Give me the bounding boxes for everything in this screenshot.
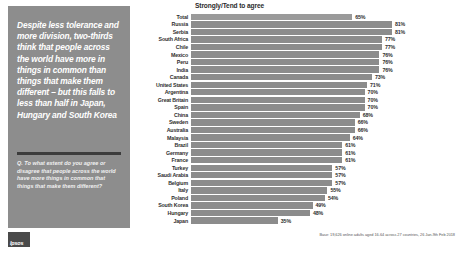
chart-row: Peru76% [130, 58, 461, 66]
bar-value-label: 57% [335, 165, 345, 171]
chart-row: Turkey57% [130, 164, 461, 172]
category-label: Argentina [130, 89, 191, 95]
bar-value-label: 64% [353, 135, 363, 141]
category-label: Germany [130, 150, 191, 156]
bar-value-label: 55% [330, 187, 340, 193]
chart-row: India76% [130, 66, 461, 74]
bar-value-label: 66% [358, 119, 368, 125]
chart-row: South Africa77% [130, 36, 461, 44]
bar-value-label: 61% [345, 142, 355, 148]
bar-value-label: 48% [313, 210, 323, 216]
divider-rule [17, 152, 121, 155]
category-label: India [130, 67, 191, 73]
headline-panel: Despite less tolerance and more division… [8, 6, 130, 228]
chart-row: France61% [130, 156, 461, 164]
bar-track: 71% [191, 82, 461, 88]
category-label: Poland [130, 195, 191, 201]
bar [191, 29, 392, 35]
bar-track: 61% [191, 157, 461, 163]
footer-strip [0, 248, 461, 253]
category-label: Mexico [130, 52, 191, 58]
bar-value-label: 76% [382, 59, 392, 65]
category-label: Chile [130, 44, 191, 50]
bar [191, 44, 382, 50]
chart-row: Saudi Arabia57% [130, 171, 461, 179]
bar [191, 104, 365, 110]
bar [191, 202, 313, 208]
category-label: Japan [130, 218, 191, 224]
bar-track: 61% [191, 149, 461, 155]
bar-track: 68% [191, 112, 461, 118]
bar-track: 57% [191, 165, 461, 171]
bar [191, 187, 327, 193]
bar [191, 180, 332, 186]
category-label: Australia [130, 127, 191, 133]
chart-row: Australia66% [130, 126, 461, 134]
category-label: China [130, 112, 191, 118]
bar [191, 36, 382, 42]
chart-row: Belgium57% [130, 179, 461, 187]
slide-canvas: Despite less tolerance and more division… [0, 0, 461, 253]
category-label: Serbia [130, 29, 191, 35]
category-label: Spain [130, 104, 191, 110]
chart-row: Serbia81% [130, 28, 461, 36]
bar [191, 21, 392, 27]
chart-row: Sweden66% [130, 119, 461, 127]
category-label: Belgium [130, 180, 191, 186]
bar-value-label: 68% [363, 112, 373, 118]
chart-row: United States71% [130, 81, 461, 89]
bar-track: 49% [191, 202, 461, 208]
bar [191, 217, 278, 223]
category-label: Great Britain [130, 97, 191, 103]
bar [191, 134, 350, 140]
bar-value-label: 77% [385, 44, 395, 50]
bar-value-label: 57% [335, 172, 345, 178]
category-label: United States [130, 82, 191, 88]
bar [191, 142, 342, 148]
chart-row: Malaysia64% [130, 134, 461, 142]
headline-text: Despite less tolerance and more division… [17, 20, 123, 121]
chart-row: Hungary48% [130, 209, 461, 217]
chart-row: Poland54% [130, 194, 461, 202]
bar-track: 70% [191, 104, 461, 110]
bar-track: 64% [191, 134, 461, 140]
category-label: Malaysia [130, 135, 191, 141]
bar [191, 195, 325, 201]
chart-row: Argentina70% [130, 88, 461, 96]
chart-row: Mexico76% [130, 51, 461, 59]
bar-track: 57% [191, 172, 461, 178]
bar-value-label: 61% [345, 150, 355, 156]
chart-row: Germany61% [130, 149, 461, 157]
bar-track: 81% [191, 29, 461, 35]
bar [191, 14, 352, 20]
bar-value-label: 71% [370, 82, 380, 88]
chart-row: Great Britain70% [130, 96, 461, 104]
category-label: Peru [130, 59, 191, 65]
bar-track: 76% [191, 51, 461, 57]
category-label: South Korea [130, 202, 191, 208]
bar-value-label: 70% [368, 97, 378, 103]
category-label: France [130, 157, 191, 163]
chart-row: Canada73% [130, 73, 461, 81]
category-label: South Africa [130, 36, 191, 42]
bar-chart: Strongly/Tend to agree Total65%Russia81%… [130, 0, 461, 253]
bar [191, 165, 332, 171]
bar-track: 65% [191, 14, 461, 20]
bar [191, 157, 342, 163]
category-label: Russia [130, 21, 191, 27]
bar-value-label: 70% [368, 89, 378, 95]
bar [191, 127, 355, 133]
category-label: Canada [130, 74, 191, 80]
category-label: Total [130, 14, 191, 20]
category-label: Sweden [130, 119, 191, 125]
bar-track: 66% [191, 127, 461, 133]
bar-track: 76% [191, 59, 461, 65]
bar [191, 210, 310, 216]
chart-row: Russia81% [130, 21, 461, 29]
bar-value-label: 77% [385, 36, 395, 42]
chart-title: Strongly/Tend to agree [195, 2, 264, 9]
category-label: Hungary [130, 210, 191, 216]
category-label: Italy [130, 187, 191, 193]
bar [191, 97, 365, 103]
chart-row: Chile77% [130, 43, 461, 51]
